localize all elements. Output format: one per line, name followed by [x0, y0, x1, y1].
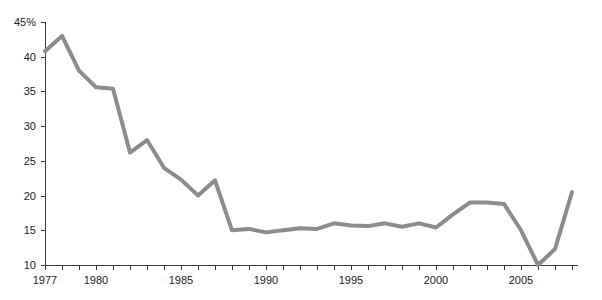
y-tick-label-35: 35 [24, 85, 36, 97]
y-tick-label-40: 40 [24, 51, 36, 63]
y-axis-group: 1015202530354045% [14, 16, 46, 271]
x-tick-label-1977: 1977 [33, 274, 57, 286]
y-tick-label-25: 25 [24, 155, 36, 167]
x-tick-label-1980: 1980 [84, 274, 108, 286]
x-tick-label-1995: 1995 [339, 274, 363, 286]
chart-canvas: 1015202530354045% 1977198019851990199520… [0, 0, 602, 300]
x-axis-group: 1977198019851990199520002005 [33, 265, 578, 286]
x-tick-label-1990: 1990 [254, 274, 278, 286]
y-tick-label-45: 45% [14, 16, 36, 28]
x-tick-label-1985: 1985 [169, 274, 193, 286]
y-tick-label-30: 30 [24, 120, 36, 132]
x-tick-label-2000: 2000 [424, 274, 448, 286]
y-tick-label-20: 20 [24, 190, 36, 202]
y-tick-label-10: 10 [24, 259, 36, 271]
plot-series-group [45, 36, 572, 265]
data-line-rate [45, 36, 572, 265]
line-chart: 1015202530354045% 1977198019851990199520… [0, 0, 602, 300]
y-tick-labels: 1015202530354045% [14, 16, 36, 271]
y-tick-label-15: 15 [24, 224, 36, 236]
y-tick-marks [41, 23, 45, 266]
x-tick-labels: 1977198019851990199520002005 [33, 274, 533, 286]
x-tick-label-2005: 2005 [509, 274, 533, 286]
